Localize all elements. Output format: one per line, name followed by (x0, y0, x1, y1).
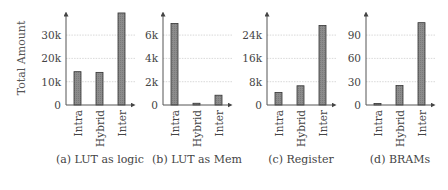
x-tick-label: Hybrid (191, 110, 203, 147)
subplot-caption: (b) LUT as Mem (152, 153, 242, 166)
subplot-caption: (c) Register (268, 153, 334, 166)
x-tick-label: Inter (317, 109, 329, 136)
y-axis-label: Total Amount (15, 20, 28, 95)
bar-inter (319, 25, 326, 105)
bar-hybrid (396, 86, 403, 105)
x-tick-label: Hybrid (394, 110, 406, 147)
y-tick-label: 60 (348, 52, 361, 64)
bar-hybrid (96, 72, 103, 105)
x-tick-label: Inter (116, 109, 128, 136)
y-tick-label: 10k (41, 76, 61, 88)
x-tick-label: Hybrid (94, 110, 106, 147)
y-tick-label: 0 (354, 99, 361, 111)
y-tick-label: 6k (145, 29, 159, 41)
y-tick-label: 30 (348, 76, 361, 88)
y-tick-label: 90 (348, 29, 361, 41)
subplot-caption: (d) BRAMs (370, 153, 431, 166)
y-tick-label: 2k (145, 76, 159, 88)
bar-inter (418, 23, 425, 105)
bar-intra (275, 92, 282, 105)
y-tick-label: 4k (145, 52, 159, 64)
bar-inter (118, 13, 125, 105)
figure: Total Amount 010k20k30kIntraHybridInter(… (0, 0, 448, 190)
subplot-a: 010k20k30kIntraHybridInter(a) LUT as log… (41, 13, 144, 166)
x-tick-label: Inter (213, 109, 225, 136)
subplot-d: 0306090IntraHybridInter(d) BRAMs (348, 14, 436, 166)
x-tick-label: Intra (273, 110, 285, 136)
x-tick-label: Intra (72, 110, 84, 136)
bar-intra (74, 72, 81, 105)
x-tick-label: Hybrid (295, 110, 307, 147)
y-tick-label: 0 (255, 99, 262, 111)
y-tick-label: 0 (54, 99, 61, 111)
bar-hybrid (297, 86, 304, 105)
bar-inter (215, 95, 222, 105)
y-tick-label: 24k (242, 29, 262, 41)
y-tick-label: 30k (41, 29, 61, 41)
y-tick-label: 8k (249, 76, 263, 88)
x-tick-label: Intra (169, 110, 181, 136)
bar-intra (171, 23, 178, 105)
x-tick-label: Intra (372, 110, 384, 136)
subplot-c: 08k16k24kIntraHybridInter(c) Register (242, 14, 337, 166)
y-tick-label: 20k (41, 52, 61, 64)
y-tick-label: 0 (151, 99, 158, 111)
x-tick-label: Inter (416, 109, 428, 136)
subplot-b: 02k4k6kIntraHybridInter(b) LUT as Mem (145, 14, 243, 166)
subplot-caption: (a) LUT as logic (56, 153, 144, 166)
y-tick-label: 16k (242, 52, 262, 64)
